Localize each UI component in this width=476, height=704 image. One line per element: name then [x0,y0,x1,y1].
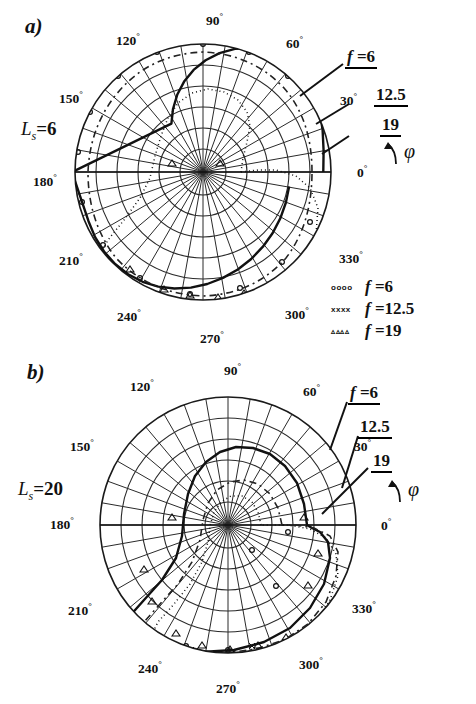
callout-f6-b: f =6 [348,384,380,405]
callout-f12p5-b: 12.5 [358,418,392,439]
curve-f6-b [120,447,330,652]
polar-grid-b [100,397,356,653]
angle-label-90-a: 90° [206,12,223,27]
legend-label-f6: f =6 [365,277,393,297]
legend-row-f19: ▵▵▵▵f =19 [331,320,414,342]
phi-rotation-arrow-icon-a [382,140,404,166]
angle-label-120-a: 120° [116,32,140,47]
callout-f19-b: 19 [371,452,392,473]
angle-label-30-b: 30° [354,438,371,453]
angle-label-210-b: 210° [68,602,92,617]
curve-f19-b [140,496,338,654]
phi-label-b: φ [408,478,419,501]
circle-marker-icon: оооо [331,283,365,292]
angle-label-300-a: 300° [285,306,309,321]
angle-label-60-a: 60° [286,35,303,50]
legend-label-f12p5: f =12.5 [365,299,414,319]
angle-label-60-b: 60° [303,383,320,398]
angle-label-300-b: 300° [299,656,323,671]
angle-label-330-a: 330° [339,250,363,265]
panel-b: b) [0,350,476,704]
legend: ооооf =6 xxxxf =12.5 ▵▵▵▵f =19 [331,276,414,342]
phi-label-a: φ [404,140,415,163]
angle-label-330-b: 330° [352,600,376,615]
phi-rotation-arrow-icon-b [386,478,408,504]
angle-label-180-a: 180° [33,173,57,188]
angle-label-240-b: 240° [138,660,162,675]
angle-label-120-b: 120° [130,378,154,393]
angle-label-150-b: 150° [70,438,94,453]
angle-label-270-a: 270° [200,330,224,345]
callout-f12p5-a: 12.5 [374,86,408,107]
ls-label-a: Ls=6 [21,118,57,144]
angle-label-150-a: 150° [59,90,83,105]
angle-label-270-b: 270° [216,680,240,695]
callout-f6-a: f =6 [345,48,377,69]
legend-row-f12p5: xxxxf =12.5 [331,298,414,320]
cross-marker-icon: xxxx [331,305,365,314]
angle-label-210-a: 210° [59,252,83,267]
angle-label-240-a: 240° [117,308,141,323]
callout-leaders-a [300,64,349,154]
callout-f19-a: 19 [380,116,401,137]
angle-label-0-a: 0° [357,164,367,179]
angle-label-180-b: 180° [50,516,74,531]
angle-label-30-a: 30° [340,92,357,107]
angle-label-90-b: 90° [224,362,241,377]
angle-label-0-b: 0° [381,517,391,532]
panel-a: a) [0,0,476,352]
ls-label-b: Ls=20 [18,478,63,504]
legend-row-f6: ооооf =6 [331,276,414,298]
legend-label-f19: f =19 [365,321,402,341]
triangle-marker-icon: ▵▵▵▵ [331,327,365,336]
